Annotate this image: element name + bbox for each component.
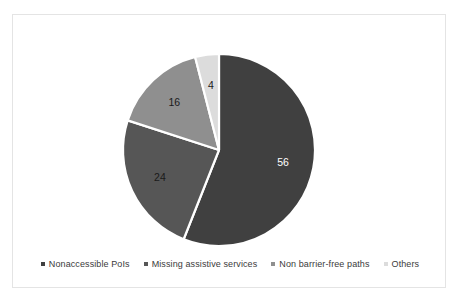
legend-item-label: Missing assistive services bbox=[152, 259, 258, 269]
pie-slices bbox=[123, 54, 315, 246]
chart-frame: 5624164 Nonaccessible PoIs Missing assis… bbox=[12, 14, 446, 288]
legend-item[interactable]: Nonaccessible PoIs bbox=[41, 259, 130, 269]
legend-swatch-icon bbox=[271, 262, 275, 266]
legend-swatch-icon bbox=[144, 262, 148, 266]
legend-swatch-icon bbox=[41, 262, 45, 266]
pie-plot-area: 5624164 bbox=[13, 15, 447, 247]
legend-swatch-icon bbox=[384, 262, 388, 266]
pie-slice-label: 16 bbox=[168, 96, 180, 108]
legend-item[interactable]: Non barrier-free paths bbox=[271, 259, 369, 269]
legend-item[interactable]: Others bbox=[384, 259, 420, 269]
pie-slice-label: 56 bbox=[277, 156, 289, 168]
legend-item-label: Nonaccessible PoIs bbox=[49, 259, 130, 269]
pie-slice-label: 24 bbox=[154, 171, 166, 183]
legend-item-label: Non barrier-free paths bbox=[279, 259, 369, 269]
legend-item-label: Others bbox=[392, 259, 420, 269]
pie-chart-svg: 5624164 bbox=[13, 15, 447, 247]
chart-legend: Nonaccessible PoIs Missing assistive ser… bbox=[13, 251, 447, 277]
legend-item[interactable]: Missing assistive services bbox=[144, 259, 258, 269]
pie-slice-label: 4 bbox=[208, 79, 214, 91]
